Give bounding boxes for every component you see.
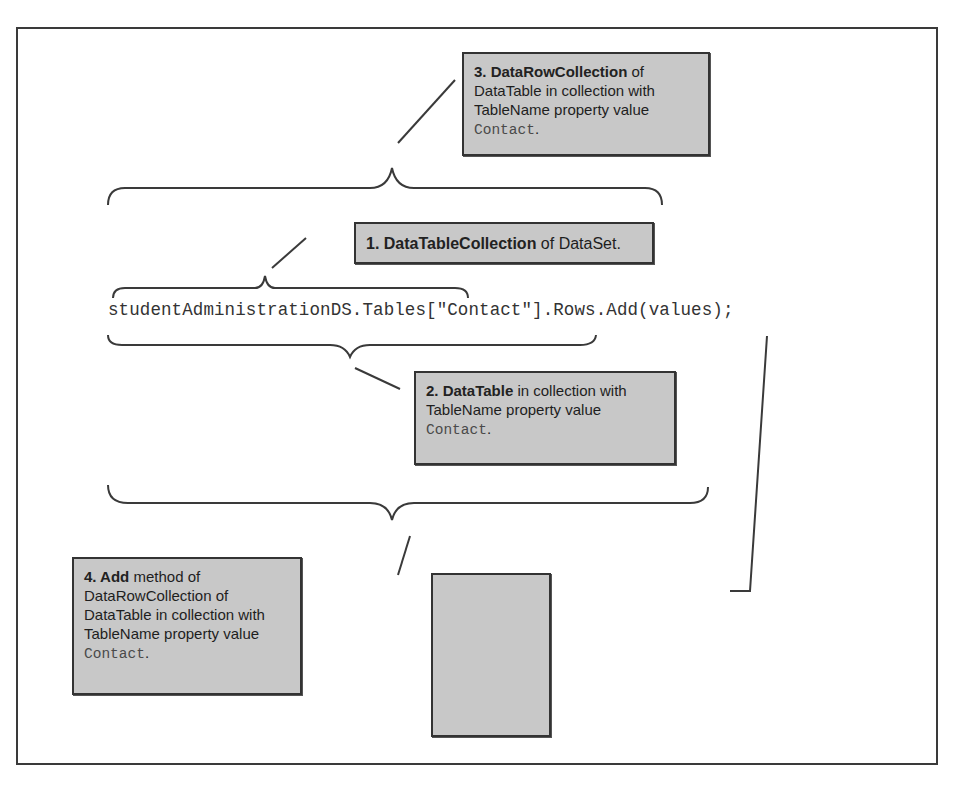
connector-2 — [355, 368, 400, 389]
connector-values — [730, 336, 767, 591]
callout-object-array — [431, 573, 551, 737]
callout-3-code: Contact — [474, 122, 535, 138]
callout-3-end: . — [535, 120, 539, 137]
callout-2-code: Contact — [426, 422, 487, 438]
connector-3 — [398, 80, 455, 143]
brace-datatable — [108, 335, 596, 357]
brace-add — [108, 485, 708, 520]
callout-add-method: 4. Add method of DataRowCollection of Da… — [72, 557, 302, 695]
callout-2-bold: 2. DataTable — [426, 382, 513, 399]
brace-tables — [113, 276, 468, 298]
callout-4-code: Contact — [84, 646, 145, 662]
callout-datatablecollection: 1. DataTableCollection of DataSet. — [354, 222, 654, 264]
code-line: studentAdministrationDS.Tables["Contact"… — [108, 300, 734, 320]
callout-4-end: . — [145, 644, 149, 661]
callout-datatable: 2. DataTable in collection with TableNam… — [414, 371, 676, 465]
brace-rows — [108, 168, 662, 205]
callout-datarowcollection: 3. DataRowCollection of DataTable in col… — [462, 52, 710, 156]
callout-3-bold: 3. DataRowCollection — [474, 63, 627, 80]
callout-1-bold: 1. DataTableCollection — [366, 235, 536, 252]
connector-1 — [272, 238, 306, 268]
callout-4-bold: 4. Add — [84, 568, 129, 585]
connector-4 — [398, 536, 410, 575]
callout-1-text: of DataSet. — [536, 235, 621, 252]
callout-2-end: . — [487, 420, 491, 437]
